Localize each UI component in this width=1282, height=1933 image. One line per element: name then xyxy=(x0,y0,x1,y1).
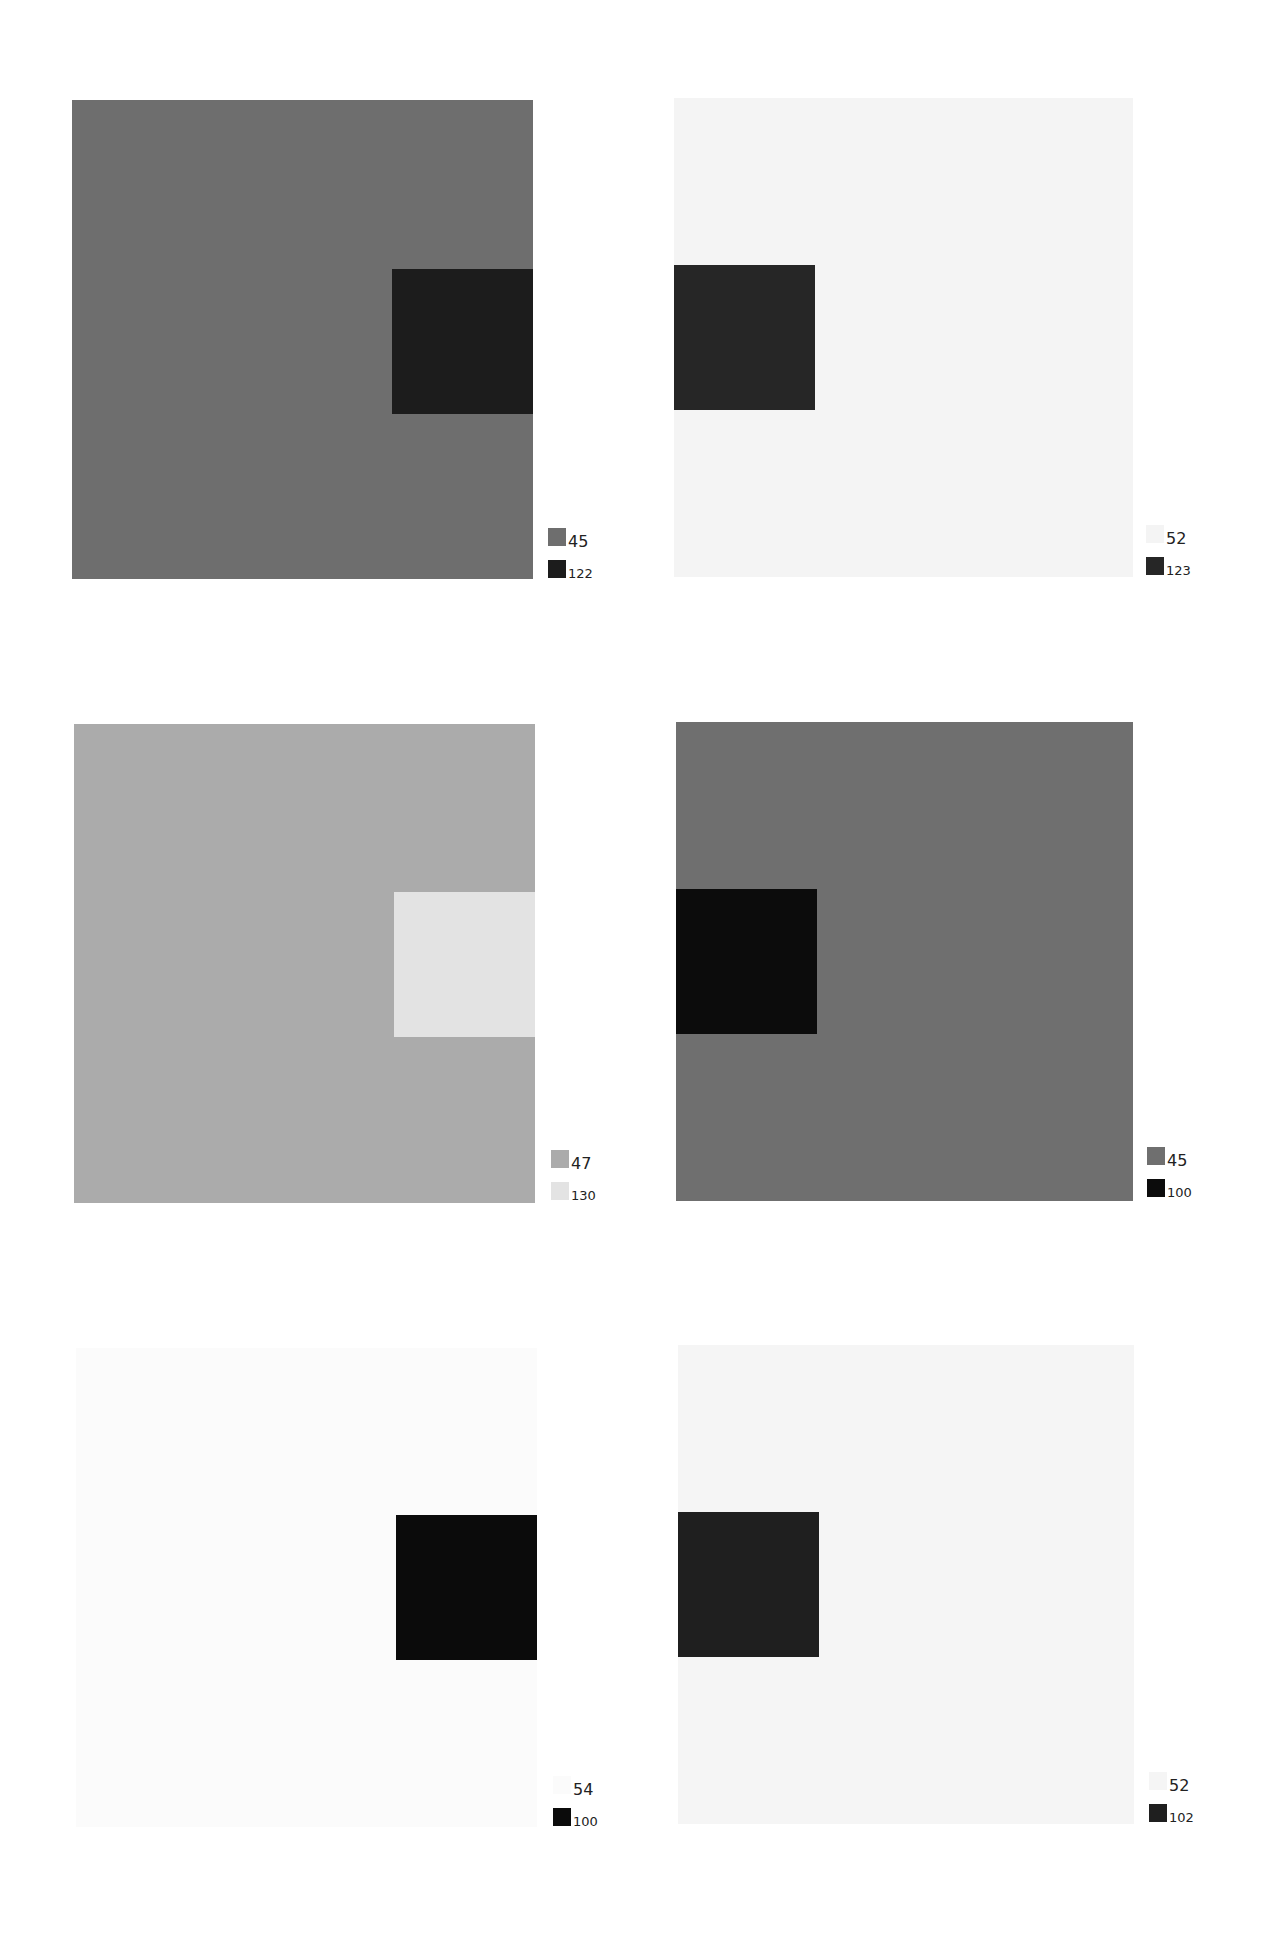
legend-label-bg: 45 xyxy=(1167,1153,1187,1169)
legend-swatch-bg xyxy=(548,528,566,546)
inner-square-5 xyxy=(396,1515,537,1660)
inner-square-3 xyxy=(394,892,535,1037)
color-panel-3 xyxy=(74,724,535,1203)
legend-label-bg: 45 xyxy=(568,534,588,550)
legend-label-inner: 130 xyxy=(571,1188,596,1204)
inner-square-4 xyxy=(676,889,817,1034)
legend-swatch-bg xyxy=(553,1776,571,1794)
legend-6: 52 102 xyxy=(1149,1772,1229,1828)
legend-swatch-inner xyxy=(1146,557,1164,575)
legend-swatch-inner xyxy=(551,1182,569,1200)
legend-swatch-bg xyxy=(1149,1772,1167,1790)
legend-label-inner: 100 xyxy=(1167,1185,1192,1201)
legend-label-inner: 123 xyxy=(1166,563,1191,579)
inner-square-2 xyxy=(674,265,815,410)
legend-4: 45 100 xyxy=(1147,1147,1227,1203)
color-panel-6 xyxy=(678,1345,1134,1824)
legend-swatch-bg xyxy=(551,1150,569,1168)
legend-label-bg: 52 xyxy=(1169,1778,1189,1794)
legend-label-bg: 54 xyxy=(573,1782,593,1798)
legend-label-bg: 47 xyxy=(571,1156,591,1172)
legend-swatch-inner xyxy=(553,1808,571,1826)
legend-swatch-inner xyxy=(548,560,566,578)
color-panel-1 xyxy=(72,100,533,579)
legend-label-inner: 100 xyxy=(573,1814,598,1830)
inner-square-1 xyxy=(392,269,533,414)
legend-3: 47 130 xyxy=(551,1150,631,1206)
legend-swatch-bg xyxy=(1147,1147,1165,1165)
color-panel-4 xyxy=(676,722,1133,1201)
color-panel-2 xyxy=(674,98,1133,577)
color-panel-5 xyxy=(76,1348,537,1827)
legend-2: 52 123 xyxy=(1146,525,1226,581)
legend-label-bg: 52 xyxy=(1166,531,1186,547)
legend-label-inner: 122 xyxy=(568,566,593,582)
legend-swatch-bg xyxy=(1146,525,1164,543)
legend-5: 54 100 xyxy=(553,1776,633,1832)
legend-1: 45 122 xyxy=(548,528,628,584)
legend-label-inner: 102 xyxy=(1169,1810,1194,1826)
inner-square-6 xyxy=(678,1512,819,1657)
legend-swatch-inner xyxy=(1147,1179,1165,1197)
legend-swatch-inner xyxy=(1149,1804,1167,1822)
